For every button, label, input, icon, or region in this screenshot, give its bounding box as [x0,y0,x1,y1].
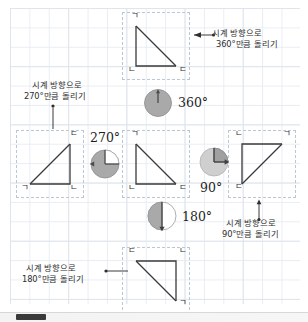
worksheet-page: ㄱ ㄴ ㄷ 시계 방향으로 360°만큼 돌리기 360° 시계 방향으로 27… [0,0,308,322]
callout-90-line1: 시계 방향으로 [226,218,278,229]
callout-360-line2: 360°만큼 돌리기 [216,39,278,50]
bottom-bar [0,312,308,322]
callout-360-line1: 시계 방향으로 [212,28,278,39]
callout-270-line2: 270°만큼 돌리기 [24,91,86,102]
vertex-label-top-c: ㄷ [179,64,187,75]
dial-360-label: 360° [178,95,208,112]
vertex-label-left-a: ㄱ [21,182,29,193]
callout-180-line2: 180°만큼 돌리기 [22,274,84,285]
callout-360: 시계 방향으로 360°만큼 돌리기 [212,28,278,50]
dial-270-label: 270° [90,130,120,147]
callout-270: 시계 방향으로 270°만큼 돌리기 [24,80,86,102]
vertex-label-bottom-b: ㄴ [179,245,187,256]
callout-180: 시계 방향으로 180°만큼 돌리기 [22,263,84,285]
dial-90 [198,146,230,178]
vertex-label-bottom-a: ㄱ [179,297,187,308]
vertex-label-left-c: ㄷ [70,128,78,139]
vertex-label-right-c: ㄷ [235,181,243,192]
callout-90: 시계 방향으로 90°만큼 돌리기 [222,218,278,240]
vertex-label-right-b: ㄴ [235,128,243,139]
callout-270-arrow [48,104,58,132]
vertex-label-top-a: ㄱ [131,10,139,21]
dial-270 [89,148,121,180]
vertex-label-right-a: ㄱ [283,128,291,139]
dial-90-label: 90° [200,180,222,197]
dial-180 [146,200,178,232]
vertex-label-bottom-c: ㄷ [128,245,136,256]
vertex-label-top-b: ㄴ [128,64,136,75]
callout-270-line1: 시계 방향으로 [32,80,86,91]
vertex-label-center-b: ㄴ [128,182,136,193]
vertex-label-center-a: ㄱ [131,128,139,139]
callout-90-line2: 90°만큼 돌리기 [222,229,278,240]
vertex-label-left-b: ㄴ [70,182,78,193]
callout-180-line1: 시계 방향으로 [26,263,84,274]
dial-360 [143,88,173,118]
bottom-bar-tab[interactable] [16,314,46,320]
dial-180-label: 180° [182,209,212,226]
vertex-label-center-c: ㄷ [179,182,187,193]
bottom-bar-divider [0,312,308,313]
